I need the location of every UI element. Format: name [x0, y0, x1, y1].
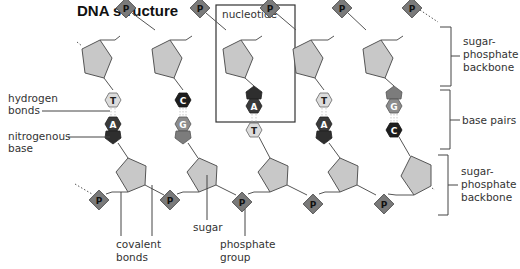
svg-text:A: A: [110, 120, 117, 130]
left-labels: hydrogen bonds nitrogenous base: [8, 92, 110, 154]
svg-text:G: G: [179, 120, 186, 130]
top-backbone-label-line1: sugar-: [463, 35, 496, 47]
dna-structure-diagram: DNA structure nucleotide P: [0, 0, 520, 269]
base-pair-4: T A: [316, 93, 340, 158]
base-a-pentagon-icon: [316, 131, 332, 144]
sugar-icon: [152, 40, 182, 78]
bottom-labels: covalent bonds sugar phosphate group: [116, 175, 276, 263]
sugar-icon: [328, 158, 358, 192]
svg-text:C: C: [180, 96, 187, 106]
svg-text:P: P: [267, 4, 274, 14]
sugar-label: sugar: [193, 221, 223, 233]
bottom-backbone-label-line3: backbone: [461, 191, 512, 203]
bracket-base-pairs: [440, 90, 450, 149]
sugar-icon: [363, 40, 393, 78]
phosphate-icon: P: [332, 0, 352, 18]
svg-text:A: A: [321, 120, 328, 130]
top-backbone-label-line2: phosphate: [463, 48, 519, 60]
svg-text:C: C: [391, 126, 398, 136]
svg-text:T: T: [251, 126, 258, 136]
hydrogen-bonds-label-line1: hydrogen: [8, 92, 58, 104]
svg-text:G: G: [390, 102, 397, 112]
svg-text:P: P: [339, 4, 346, 14]
phosphate-icon: P: [190, 0, 210, 18]
base-g-pentagon-icon: [175, 131, 191, 144]
bottom-phosphates: P P P P P: [89, 190, 394, 214]
sugar-icon: [116, 158, 146, 192]
svg-text:P: P: [197, 4, 204, 14]
sugar-icon: [82, 40, 112, 78]
svg-text:P: P: [381, 200, 388, 210]
phosphate-group-label-line1: phosphate: [220, 238, 276, 250]
nitrogenous-base-label-line2: base: [8, 142, 33, 154]
svg-text:T: T: [321, 96, 328, 106]
top-backbone-label-line3: backbone: [463, 61, 514, 73]
base-pairs-label: base pairs: [462, 114, 516, 126]
base-g-pentagon-icon: [386, 86, 402, 99]
svg-text:P: P: [123, 4, 130, 14]
phosphate-group-label-line2: group: [220, 251, 251, 263]
sugar-icon: [187, 158, 217, 192]
bracket-bottom-backbone: [438, 155, 448, 215]
svg-text:P: P: [310, 200, 317, 210]
top-backbone: [77, 10, 438, 90]
bottom-backbone-label-line2: phosphate: [461, 178, 517, 190]
svg-text:P: P: [409, 4, 416, 14]
nitrogenous-base-label-line1: nitrogenous: [8, 130, 71, 142]
sugar-icon: [401, 156, 431, 195]
covalent-bonds-label-line1: covalent: [116, 238, 161, 250]
base-a-pentagon-icon: [246, 86, 262, 99]
phosphate-icon: P: [402, 0, 422, 18]
svg-text:T: T: [110, 96, 117, 106]
phosphate-icon: P: [303, 194, 323, 214]
right-brackets: sugar- phosphate backbone base pairs sug…: [438, 27, 519, 215]
bottom-backbone-label-line1: sugar-: [461, 165, 494, 177]
base-pair-1: T A: [105, 93, 128, 158]
phosphate-icon: P: [160, 190, 180, 210]
sugar-icon: [223, 40, 253, 78]
bottom-backbone: [75, 156, 435, 195]
bracket-top-backbone: [440, 27, 451, 86]
sugar-icon: [293, 40, 323, 78]
sugar-icon: [258, 158, 288, 192]
svg-text:P: P: [239, 198, 246, 208]
svg-text:A: A: [251, 102, 258, 112]
phosphate-icon: P: [374, 194, 394, 214]
base-pair-2: C G: [175, 93, 198, 158]
svg-text:P: P: [167, 196, 174, 206]
svg-text:P: P: [96, 196, 103, 206]
base-pair-5: G C: [386, 86, 410, 156]
phosphate-icon: P: [89, 190, 109, 210]
hydrogen-bonds-label-line2: bonds: [8, 104, 40, 116]
covalent-bonds-label-line2: bonds: [116, 251, 148, 263]
